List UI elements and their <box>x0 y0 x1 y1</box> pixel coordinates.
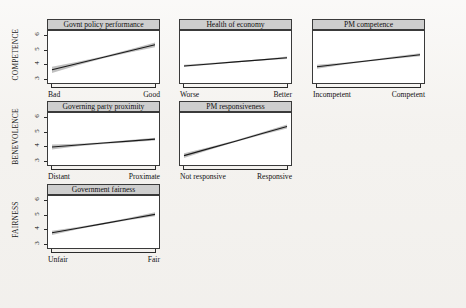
y-tick-label: 5 <box>33 125 41 137</box>
panel-government-fairness: Government fairness <box>47 184 160 249</box>
y-tick-mark <box>44 35 47 36</box>
x-axis-label-right-governing-party-proximity: Proximate <box>7 172 160 181</box>
y-tick-label: 3 <box>33 72 41 84</box>
row-label-fairness: FAIRNESS <box>11 191 20 249</box>
panel-pm-competence: PM competence <box>312 19 425 84</box>
y-tick-mark <box>44 79 47 80</box>
x-axis-line <box>183 87 288 88</box>
y-tick-label: 5 <box>33 43 41 55</box>
x-axis-label-right-govnt-policy-performance: Good <box>7 90 160 99</box>
x-tick-mark <box>51 84 52 87</box>
y-tick-label: 3 <box>33 154 41 166</box>
y-tick-mark <box>44 64 47 65</box>
panel-title-govnt-policy-performance: Govnt policy performance <box>47 19 160 30</box>
x-tick-mark <box>155 166 156 169</box>
x-tick-mark <box>183 84 184 87</box>
x-tick-mark <box>155 249 156 252</box>
y-tick-mark <box>44 161 47 162</box>
y-tick-mark <box>44 132 47 133</box>
row-label-competence: COMPETENCE <box>11 24 20 86</box>
fit-line <box>184 58 287 66</box>
x-tick-mark <box>287 84 288 87</box>
series-canvas-government-fairness <box>48 196 159 248</box>
series-canvas-health-of-economy <box>180 31 291 83</box>
panel-governing-party-proximity: Governing party proximity <box>47 101 160 166</box>
y-tick-label: 6 <box>33 28 41 40</box>
fit-line <box>317 55 420 67</box>
x-axis-label-right-health-of-economy: Better <box>139 90 292 99</box>
figure-root: COMPETENCE BENEVOLENCE FAIRNESS Govnt po… <box>0 0 466 308</box>
x-axis-label-right-government-fairness: Fair <box>7 255 160 264</box>
panel-title-governing-party-proximity: Governing party proximity <box>47 101 160 112</box>
y-tick-label: 3 <box>33 237 41 249</box>
x-axis-line <box>183 169 288 170</box>
y-tick-label: 4 <box>33 222 41 234</box>
fit-line <box>52 139 155 147</box>
y-tick-label: 4 <box>33 139 41 151</box>
x-tick-mark <box>420 84 421 87</box>
y-tick-mark <box>44 215 47 216</box>
panel-title-pm-responsiveness: PM responsiveness <box>179 101 292 112</box>
y-tick-mark <box>44 200 47 201</box>
row-label-benevolence: BENEVOLENCE <box>11 105 20 169</box>
plot-area-pm-responsiveness <box>179 112 292 166</box>
panel-title-health-of-economy: Health of economy <box>179 19 292 30</box>
y-tick-mark <box>44 244 47 245</box>
plot-area-govnt-policy-performance <box>47 30 160 84</box>
x-tick-mark <box>183 166 184 169</box>
panel-title-government-fairness: Government fairness <box>47 184 160 195</box>
x-axis-line <box>316 87 421 88</box>
y-tick-label: 6 <box>33 110 41 122</box>
y-tick-label: 4 <box>33 57 41 69</box>
x-tick-mark <box>51 249 52 252</box>
y-tick-mark <box>44 229 47 230</box>
x-axis-label-right-pm-responsiveness: Responsive <box>139 172 292 181</box>
panel-govnt-policy-performance: Govnt policy performance <box>47 19 160 84</box>
y-tick-label: 5 <box>33 208 41 220</box>
fit-line <box>52 214 155 232</box>
plot-area-health-of-economy <box>179 30 292 84</box>
x-tick-mark <box>51 166 52 169</box>
x-axis-label-right-pm-competence: Competent <box>272 90 425 99</box>
fit-line <box>52 45 155 70</box>
plot-area-governing-party-proximity <box>47 112 160 166</box>
x-axis-line <box>51 169 156 170</box>
y-tick-label: 6 <box>33 193 41 205</box>
x-tick-mark <box>155 84 156 87</box>
fit-line <box>184 127 287 156</box>
series-canvas-govnt-policy-performance <box>48 31 159 83</box>
y-tick-mark <box>44 50 47 51</box>
series-canvas-pm-competence <box>313 31 424 83</box>
x-axis-line <box>51 252 156 253</box>
x-tick-mark <box>316 84 317 87</box>
x-axis-line <box>51 87 156 88</box>
series-canvas-governing-party-proximity <box>48 113 159 165</box>
panel-title-pm-competence: PM competence <box>312 19 425 30</box>
plot-area-pm-competence <box>312 30 425 84</box>
confidence-band <box>52 138 155 150</box>
plot-area-government-fairness <box>47 195 160 249</box>
y-tick-mark <box>44 146 47 147</box>
x-tick-mark <box>287 166 288 169</box>
y-tick-mark <box>44 117 47 118</box>
series-canvas-pm-responsiveness <box>180 113 291 165</box>
panel-pm-responsiveness: PM responsiveness <box>179 101 292 166</box>
panel-health-of-economy: Health of economy <box>179 19 292 84</box>
